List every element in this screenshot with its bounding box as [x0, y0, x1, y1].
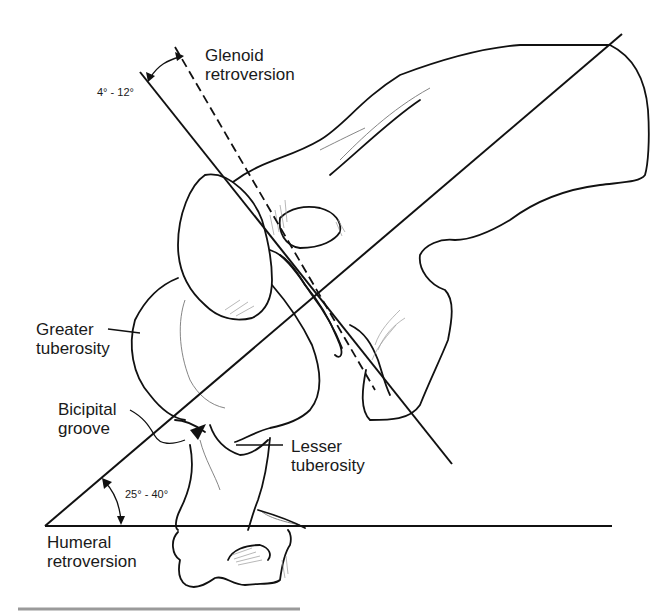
- humerus-front: [235, 285, 319, 442]
- glenoid-label-line1: Glenoid: [205, 46, 295, 65]
- bicipital-label-line1: Bicipital: [58, 400, 117, 419]
- lesser-label-line1: Lesser: [291, 437, 365, 456]
- humeral-angle-arc: [104, 481, 121, 522]
- bicipital-leader: [130, 410, 185, 443]
- humeral-head: [178, 174, 272, 319]
- greater-tuberosity-leader: [108, 329, 140, 333]
- scapula-outline: [233, 45, 649, 420]
- condyle-fossa: [228, 545, 270, 560]
- distal-condyles: [173, 530, 291, 587]
- humeral-arc-arrowhead-bottom: [117, 516, 125, 525]
- acromion-shading: [270, 200, 287, 235]
- bicipital-label-line2: groove: [58, 419, 117, 438]
- glenoid-angle-arc: [150, 57, 180, 78]
- glenoid-rim-inner: [280, 255, 342, 348]
- greater-tuberosity-outline: [132, 278, 185, 420]
- bicipital-groove-label: Bicipital groove: [58, 400, 117, 438]
- humeral-shaft-left: [176, 445, 192, 530]
- glenoid-label-line2: retroversion: [205, 65, 295, 84]
- glenoid-retroversion-label: Glenoid retroversion: [205, 46, 295, 84]
- greater-label-line2: tuberosity: [36, 339, 110, 358]
- humeral-retroversion-label: Humeral retroversion: [47, 533, 137, 571]
- humeral-head-hatch: [225, 300, 254, 316]
- glenoid-angle-label: 4° - 12°: [97, 86, 134, 98]
- humeral-label-line1: Humeral: [47, 533, 137, 552]
- scapular-spine: [330, 100, 420, 175]
- greater-tuberosity-label: Greater tuberosity: [36, 320, 110, 358]
- humeral-arc-arrowhead-top: [102, 478, 112, 489]
- lesser-tuberosity-label: Lesser tuberosity: [291, 437, 365, 475]
- scapula-inferior-shading: [372, 310, 405, 360]
- condyle-right-shade: [282, 556, 288, 578]
- humeral-label-line2: retroversion: [47, 552, 137, 571]
- scapular-spine-shading: [320, 88, 430, 160]
- glenoid-axis-dashed-line: [175, 47, 375, 390]
- greater-label-line1: Greater: [36, 320, 110, 339]
- lesser-label-line2: tuberosity: [291, 456, 365, 475]
- humeral-angle-label: 25° - 40°: [125, 488, 168, 500]
